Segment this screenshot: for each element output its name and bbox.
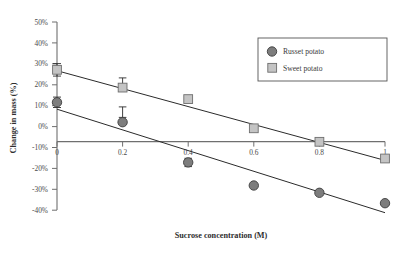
data-point [249, 181, 258, 190]
legend-label-russet-potato: Russet potato [283, 47, 324, 56]
data-point [315, 188, 324, 197]
x-tick-label: 0 [55, 148, 59, 157]
legend-marker-circle-icon [267, 47, 276, 56]
chart-figure: 50% 40% 30% 20% 10% 0% -10% -20% -30% -4… [0, 0, 403, 256]
y-tick-label: 30% [34, 59, 48, 68]
legend-box [258, 38, 387, 81]
x-tick-label: 0.8 [315, 148, 325, 157]
data-point [315, 137, 324, 146]
data-point [118, 83, 127, 92]
y-axis-tick-labels: 50% 40% 30% 20% 10% 0% -10% -20% -30% -4… [32, 18, 48, 215]
data-point [249, 124, 258, 133]
x-tick-label: 0.6 [249, 148, 259, 157]
data-point [380, 199, 389, 208]
y-tick-label: 0% [38, 122, 48, 131]
data-point [381, 154, 390, 163]
x-axis-title: Sucrose concentration (M) [175, 231, 268, 240]
x-axis-tick-labels: 0 0.2 0.4 0.6 0.8 1 [55, 148, 387, 157]
data-point [184, 158, 193, 167]
y-tick-label: -10% [32, 143, 48, 152]
scatter-plot: 50% 40% 30% 20% 10% 0% -10% -20% -30% -4… [0, 0, 403, 256]
y-tick-label: 10% [34, 101, 48, 110]
trendline-sweet-potato [57, 71, 385, 161]
x-tick-label: 0.2 [118, 148, 128, 157]
x-axis-ticks [57, 142, 385, 147]
y-tick-label: -20% [32, 164, 48, 173]
y-tick-label: 20% [34, 80, 48, 89]
error-bars-sweet-potato [53, 64, 126, 87]
y-axis-ticks [52, 22, 57, 210]
chart-legend: Russet potato Sweet potato [258, 38, 387, 81]
trendline-russet-potato [57, 109, 385, 213]
legend-marker-square-icon [268, 63, 277, 72]
data-point [184, 95, 193, 104]
data-point [53, 65, 62, 74]
data-point [118, 118, 127, 127]
y-axis-title: Change in mass (%) [9, 82, 18, 153]
y-tick-label: 40% [34, 39, 48, 48]
y-tick-label: -30% [32, 185, 48, 194]
data-points-russet-potato [52, 98, 389, 208]
y-tick-label: -40% [32, 206, 48, 215]
y-tick-label: 50% [34, 18, 48, 27]
legend-label-sweet-potato: Sweet potato [283, 64, 323, 73]
data-point [52, 98, 61, 107]
